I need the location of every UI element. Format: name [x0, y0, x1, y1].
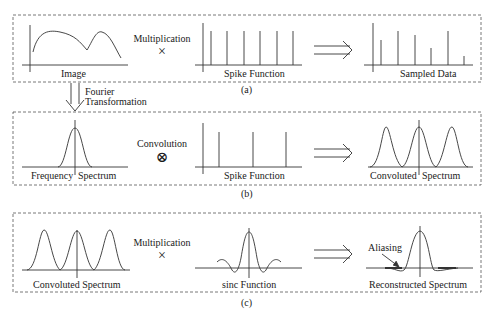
fourier-transform-arrow [66, 83, 84, 111]
spike-function-plot-a [195, 23, 302, 72]
convoluted-spectrum-plot-c [22, 230, 130, 278]
image-plot [22, 25, 128, 72]
convoluted-spectrum-label-c: Convoluted Spectrum [33, 280, 121, 290]
aliasing-pointer-arrow [382, 254, 399, 267]
panel-c-caption: (c) [241, 298, 252, 308]
image-label: Image [61, 69, 86, 79]
frequency-spectrum-plot [22, 120, 128, 175]
multiplication-operator-label-a: Multiplication [131, 34, 193, 44]
sinc-function-plot [195, 228, 302, 278]
implies-arrow-b [314, 144, 352, 162]
spike-function-plot-b [195, 123, 302, 174]
multiply-icon-a: × [155, 45, 169, 59]
sampled-data-label: Sampled Data [400, 69, 456, 79]
transformation-label: Transformation [85, 97, 147, 107]
sampled-data-plot [364, 23, 473, 72]
convoluted-spectrum-plot-b [368, 120, 473, 175]
spectrum-label-b-left: Spectrum [78, 171, 116, 181]
implies-arrow-c [314, 245, 352, 263]
spike-function-label-a: Spike Function [224, 69, 285, 79]
frequency-label: Frequency [31, 171, 73, 181]
multiplication-operator-label-c: Multiplication [131, 238, 193, 248]
convolution-operator-label: Convolution [136, 139, 188, 149]
convolution-icon: ⊗ [154, 150, 170, 165]
sinc-function-label: sinc Function [222, 280, 276, 290]
panel-b-caption: (b) [241, 189, 253, 199]
aliasing-annotation: Aliasing [368, 243, 402, 253]
diagram-canvas [0, 0, 497, 319]
spectrum-label-b-right: Spectrum [422, 171, 460, 181]
implies-arrow-a [314, 41, 352, 59]
spike-function-label-b: Spike Function [224, 171, 285, 181]
reconstructed-spectrum-label: Reconstructed Spectrum [369, 280, 467, 290]
multiply-icon-c: × [155, 249, 169, 263]
panel-a-caption: (a) [241, 85, 252, 95]
convoluted-label-b: Convoluted [370, 171, 417, 181]
